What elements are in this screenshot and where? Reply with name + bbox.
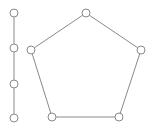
- graph-node: [10, 114, 18, 122]
- graph-figure: [0, 0, 154, 129]
- edge-layer: [14, 15, 140, 117]
- graph-canvas: [0, 0, 154, 129]
- graph-node: [27, 46, 35, 54]
- graph-edge: [32, 54, 51, 113]
- graph-node: [115, 113, 123, 121]
- graph-node: [10, 80, 18, 88]
- graph-node: [10, 9, 18, 17]
- graph-edge: [34, 15, 82, 48]
- graph-edge: [120, 54, 140, 113]
- graph-node: [137, 46, 145, 54]
- graph-node: [48, 113, 56, 121]
- graph-node: [10, 44, 18, 52]
- graph-edge: [89, 15, 137, 48]
- node-layer: [10, 9, 145, 122]
- graph-node: [82, 9, 90, 17]
